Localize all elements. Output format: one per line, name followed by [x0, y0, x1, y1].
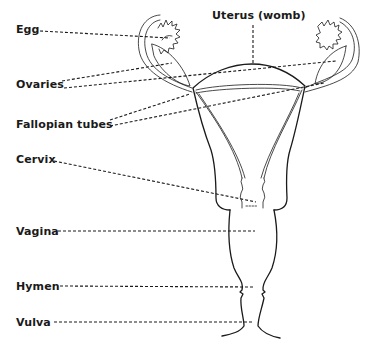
label-egg: Egg	[16, 24, 40, 36]
label-ovaries: Ovaries	[16, 79, 64, 91]
label-hymen: Hymen	[16, 281, 60, 293]
right-fimbriae	[316, 20, 342, 50]
leader-fallopian-right	[110, 83, 324, 126]
leader-egg	[40, 31, 170, 38]
label-fallopian-tubes: Fallopian tubes	[16, 119, 113, 131]
cervical-canal-left	[240, 178, 243, 208]
right-tube-inner	[305, 18, 359, 92]
label-vagina: Vagina	[16, 226, 59, 238]
leader-ovaries-left	[62, 63, 172, 81]
leader-cervix	[54, 161, 256, 202]
label-vulva: Vulva	[16, 317, 51, 329]
leader-ovaries-right	[64, 61, 336, 88]
left-tube-outer	[145, 20, 192, 88]
cavity-right-wall	[264, 90, 302, 178]
right-ovary	[315, 46, 346, 84]
leader-fallopian-left	[110, 94, 190, 120]
leader-hymen	[60, 286, 253, 287]
vagina-left-wall	[222, 210, 244, 336]
cervical-canal-right	[262, 178, 265, 208]
cavity-left-wall	[196, 92, 242, 178]
vagina-right-wall	[258, 210, 280, 338]
reproductive-anatomy-drawing	[0, 0, 374, 348]
label-cervix: Cervix	[16, 154, 56, 166]
label-uterus: Uterus (womb)	[212, 10, 306, 22]
